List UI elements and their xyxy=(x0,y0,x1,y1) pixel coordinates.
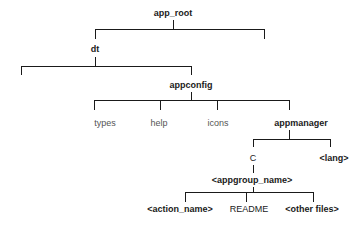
node-appconfig: appconfig xyxy=(170,80,213,90)
node-appmanager: appmanager xyxy=(274,118,328,128)
node-lang: <lang> xyxy=(319,153,348,163)
node-types: types xyxy=(94,118,116,128)
connector-to-readme xyxy=(246,192,247,202)
connector-app-root-bar xyxy=(95,29,265,30)
connector-appmanager-bar xyxy=(253,139,331,140)
connector-to-icons xyxy=(217,100,218,110)
node-appgroup-name: <appgroup_name> xyxy=(212,175,293,185)
node-c: C xyxy=(250,153,257,163)
connector-dt-bar xyxy=(21,66,192,67)
connector-to-help xyxy=(160,100,161,110)
connector-to-lang xyxy=(330,139,331,147)
connector-to-appmanager xyxy=(289,100,290,110)
node-readme: README xyxy=(230,204,269,214)
node-action-name: <action_name> xyxy=(147,204,213,214)
connector-to-unlabeled-right xyxy=(264,29,265,39)
node-icons: icons xyxy=(207,118,228,128)
connector-appmanager-stem xyxy=(289,130,290,139)
directory-tree-diagram: app_root dt appconfig types help icons a… xyxy=(0,0,362,226)
connector-to-dt xyxy=(95,29,96,39)
connector-appgroup-bar xyxy=(185,192,314,193)
connector-to-other-files xyxy=(313,192,314,202)
node-help: help xyxy=(150,118,167,128)
connector-appconfig-bar xyxy=(94,100,290,101)
connector-to-action-name xyxy=(185,192,186,202)
connector-c-stem xyxy=(253,165,254,173)
connector-to-appconfig xyxy=(191,66,192,75)
node-other-files: <other files> xyxy=(285,204,339,214)
node-app-root: app_root xyxy=(154,8,193,18)
connector-to-unlabeled-left xyxy=(21,66,22,75)
connector-to-c xyxy=(253,139,254,147)
node-dt: dt xyxy=(91,44,100,54)
connector-to-types xyxy=(94,100,95,110)
